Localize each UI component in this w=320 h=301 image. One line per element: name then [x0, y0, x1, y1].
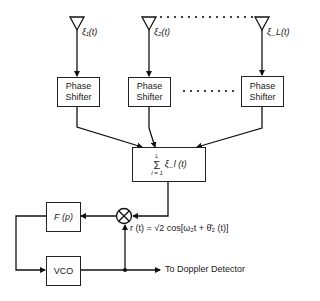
phase-shifter-1-line2: Shifter — [65, 92, 91, 103]
ellipsis-dots — [160, 16, 253, 92]
vco-block: VCO — [46, 256, 81, 286]
phase-shifter-2-line1: Phase — [136, 81, 162, 92]
vco-label: VCO — [54, 266, 74, 277]
sum-term: ξ_l (t) — [165, 159, 187, 170]
doppler-detector-label: To Doppler Detector — [165, 264, 245, 274]
phase-shifter-2-line2: Shifter — [136, 92, 162, 103]
reference-signal-equation: r (t) = √2 cos[ω₂t + θ̂₂ (t)] — [130, 223, 228, 233]
sigma-icon: Σ — [154, 160, 161, 170]
junction-dot — [123, 268, 127, 272]
loop-filter-label: F (p) — [54, 212, 73, 223]
phase-shifter-1-line1: Phase — [65, 81, 91, 92]
phase-shifter-L-line2: Shifter — [249, 92, 275, 103]
summer-block: L Σ l = 1 ξ_l (t) — [132, 147, 206, 182]
phase-shifter-2: PhaseShifter — [128, 77, 171, 107]
antenna-L-label: ξ_L(t) — [267, 27, 290, 37]
phase-shifter-1: PhaseShifter — [57, 77, 100, 107]
antenna-1-label: ξ₁(t) — [82, 27, 97, 37]
antenna-2-label: ξ₂(t) — [154, 27, 170, 37]
phase-shifter-L: PhaseShifter — [241, 76, 284, 107]
loop-filter-block: F (p) — [46, 202, 81, 232]
phase-shifter-L-line1: Phase — [249, 81, 275, 92]
sum-lower-limit: l = 1 — [151, 170, 163, 177]
